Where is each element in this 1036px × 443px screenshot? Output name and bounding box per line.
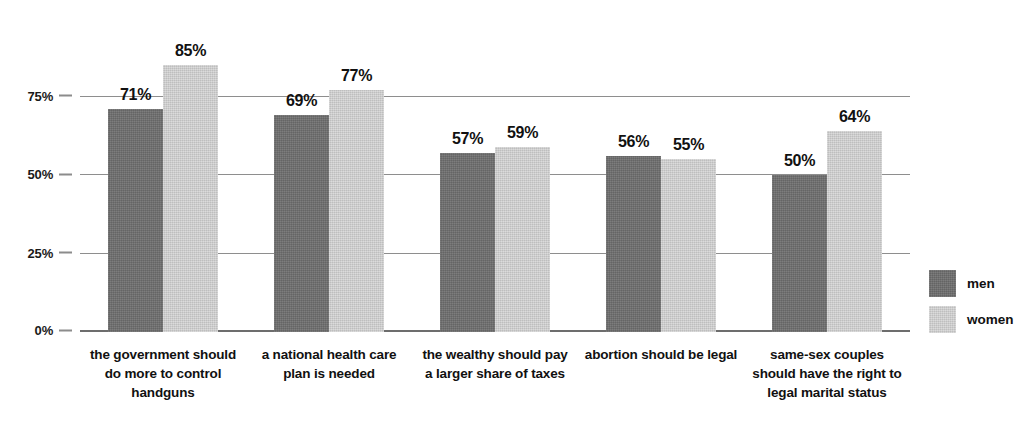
bar-women-wealthy-taxes[interactable]: 59% (495, 147, 550, 332)
category-label-line: same-sex couples (722, 345, 932, 364)
bar-value-label: 56% (618, 133, 649, 151)
bar-group-wealthy-taxes: 57% 59% the wealthy should pay a larger … (412, 18, 578, 332)
legend-swatch-women-icon (929, 306, 956, 333)
y-tick-dash-icon (59, 95, 72, 97)
bar-group-abortion: 56% 55% abortion should be legal (578, 18, 744, 332)
bar-value-label: 55% (673, 136, 704, 154)
bar-value-label: 57% (452, 130, 483, 148)
bar-value-label: 69% (286, 92, 317, 110)
legend-swatch-men-icon (929, 270, 956, 297)
category-label-line: should have the right to (722, 364, 932, 383)
y-axis-tick-0: 0% (35, 323, 72, 338)
bar-men-wealthy-taxes[interactable]: 57% (440, 153, 495, 332)
bar-women-health-care[interactable]: 77% (329, 90, 384, 332)
bar-value-label: 77% (341, 67, 372, 85)
bar-group-handguns: 71% 85% the government should do more to… (80, 18, 246, 332)
bar-women-same-sex-marriage[interactable]: 64% (827, 131, 882, 332)
chart-screenshot: 75% 50% 25% 0% 71% 85% the government sh… (0, 0, 1036, 443)
plot-area: 75% 50% 25% 0% 71% 85% the government sh… (80, 18, 910, 332)
category-label-line: handguns (58, 383, 268, 402)
legend-item-men[interactable]: men (929, 268, 1014, 298)
y-tick-dash-icon (59, 329, 72, 331)
y-tick-dash-icon (59, 173, 72, 175)
y-axis-tick-75: 75% (28, 88, 72, 103)
category-label-line: a larger share of taxes (390, 364, 600, 383)
bar-women-handguns[interactable]: 85% (163, 65, 218, 332)
category-label-same-sex-marriage: same-sex couples should have the right t… (722, 345, 932, 402)
bar-men-same-sex-marriage[interactable]: 50% (772, 175, 827, 332)
bar-value-label: 64% (839, 108, 870, 126)
bar-group-same-sex-marriage: 50% 64% same-sex couples should have the… (744, 18, 910, 332)
legend-item-women[interactable]: women (929, 304, 1014, 334)
bar-group-health-care: 69% 77% a national health care plan is n… (246, 18, 412, 332)
bar-women-abortion[interactable]: 55% (661, 159, 716, 332)
bar-value-label: 59% (507, 124, 538, 142)
y-tick-dash-icon (59, 252, 72, 254)
bar-men-health-care[interactable]: 69% (274, 115, 329, 332)
bar-value-label: 50% (784, 152, 815, 170)
bar-men-abortion[interactable]: 56% (606, 156, 661, 332)
bar-men-handguns[interactable]: 71% (108, 109, 163, 332)
category-label-line: legal marital status (722, 383, 932, 402)
chart-legend: men women (929, 268, 1014, 340)
bar-value-label: 85% (175, 42, 206, 60)
y-axis-tick-50: 50% (28, 167, 72, 182)
y-axis-tick-25: 25% (28, 245, 72, 260)
bar-value-label: 71% (120, 86, 151, 104)
legend-label-men: men (967, 276, 995, 291)
legend-label-women: women (967, 312, 1014, 327)
